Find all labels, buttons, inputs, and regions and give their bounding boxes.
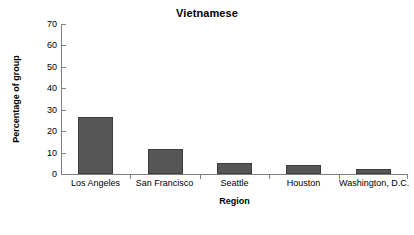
x-category-label: Seattle: [200, 178, 269, 188]
y-tick-label: 30: [47, 105, 57, 115]
y-tick-label: 60: [47, 40, 57, 50]
y-tick-mark: [62, 174, 66, 175]
bar-series: [61, 24, 408, 174]
bar: [286, 165, 321, 174]
y-tick-label: 70: [47, 19, 57, 29]
bar-chart: Vietnamese Percentage of group 010203040…: [0, 0, 414, 235]
y-axis-title: Percentage of group: [9, 24, 23, 174]
x-axis-category-labels: Los AngelesSan FranciscoSeattleHoustonWa…: [61, 178, 408, 192]
x-axis-line: [61, 174, 408, 175]
bar: [148, 149, 183, 174]
plot-area: 010203040506070: [61, 24, 408, 174]
bar: [217, 163, 252, 174]
chart-title: Vietnamese: [0, 7, 414, 19]
y-tick-label: 0: [52, 169, 57, 179]
y-axis-title-label: Percentage of group: [11, 55, 21, 143]
bar: [356, 169, 391, 174]
x-category-label: Los Angeles: [61, 178, 130, 188]
x-axis-title: Region: [61, 196, 408, 206]
bar: [78, 117, 113, 174]
x-category-label: Washington, D.C.: [339, 178, 408, 188]
y-tick-label: 50: [47, 62, 57, 72]
x-category-label: Houston: [269, 178, 338, 188]
y-tick-label: 10: [47, 148, 57, 158]
x-category-label: San Francisco: [130, 178, 199, 188]
y-tick-label: 40: [47, 83, 57, 93]
y-tick-label: 20: [47, 126, 57, 136]
